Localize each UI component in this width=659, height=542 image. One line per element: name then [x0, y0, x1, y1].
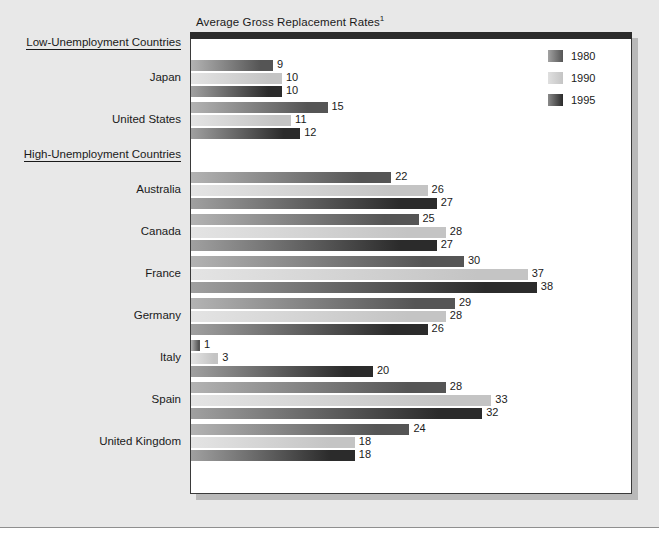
- bar-value-label: 10: [286, 84, 298, 96]
- chart-figure: Average Gross Replacement Rates1 1980199…: [0, 0, 659, 542]
- bar-1980: [191, 298, 455, 309]
- bar-1980: [191, 256, 464, 267]
- chart-row: United Kingdom241818: [0, 422, 659, 464]
- bar-value-label: 10: [286, 71, 298, 83]
- country-label: Spain: [152, 393, 181, 405]
- bar-1990: [191, 227, 446, 238]
- bar-1990: [191, 353, 218, 364]
- bar-1980: [191, 382, 446, 393]
- chart-row: Canada252827: [0, 212, 659, 254]
- bar-value-label: 24: [413, 422, 425, 434]
- bar-1990: [191, 437, 355, 448]
- bar-1990: [191, 185, 428, 196]
- bar-1980: [191, 172, 391, 183]
- country-label: Canada: [141, 225, 181, 237]
- bar-1995: [191, 240, 437, 251]
- bar-value-label: 33: [495, 393, 507, 405]
- bar-1980: [191, 340, 200, 351]
- bar-1980: [191, 214, 419, 225]
- bar-1995: [191, 86, 282, 97]
- bar-value-label: 15: [332, 100, 344, 112]
- bar-value-label: 26: [432, 183, 444, 195]
- country-label: United Kingdom: [99, 435, 181, 447]
- bar-value-label: 29: [459, 296, 471, 308]
- bar-1995: [191, 198, 437, 209]
- bottom-margin-strip: [0, 528, 659, 542]
- bar-1990: [191, 73, 282, 84]
- chart-row: Japan91010: [0, 58, 659, 100]
- group-header-low-unemployment: Low-Unemployment Countries: [26, 36, 181, 50]
- bar-1990: [191, 395, 491, 406]
- chart-row: Spain283332: [0, 380, 659, 422]
- bar-value-label: 28: [450, 225, 462, 237]
- bar-1990: [191, 311, 446, 322]
- bar-value-label: 27: [441, 196, 453, 208]
- bar-value-label: 25: [423, 212, 435, 224]
- chart-title-text: Average Gross Replacement Rates: [196, 16, 380, 28]
- country-label: Italy: [160, 351, 181, 363]
- bar-1995: [191, 282, 537, 293]
- chart-row: France303738: [0, 254, 659, 296]
- country-label: Japan: [150, 71, 181, 83]
- bar-value-label: 26: [432, 322, 444, 334]
- country-label: United States: [112, 113, 181, 125]
- bar-value-label: 28: [450, 309, 462, 321]
- country-label: Australia: [136, 183, 181, 195]
- bar-1995: [191, 450, 355, 461]
- bar-value-label: 38: [541, 280, 553, 292]
- chart-row: United States151112: [0, 100, 659, 142]
- bar-value-label: 27: [441, 238, 453, 250]
- bar-value-label: 20: [377, 364, 389, 376]
- plot-top-accent-bar: [190, 32, 632, 39]
- bar-1980: [191, 60, 273, 71]
- chart-title-footnote-marker: 1: [380, 14, 385, 23]
- bar-value-label: 3: [222, 351, 228, 363]
- bar-value-label: 28: [450, 380, 462, 392]
- bar-value-label: 18: [359, 435, 371, 447]
- chart-row: Italy1320: [0, 338, 659, 380]
- chart-row: Germany292826: [0, 296, 659, 338]
- bar-1980: [191, 102, 328, 113]
- bar-value-label: 22: [395, 170, 407, 182]
- group-header-high-unemployment: High-Unemployment Countries: [24, 148, 181, 162]
- bar-value-label: 18: [359, 448, 371, 460]
- bar-1995: [191, 366, 373, 377]
- bar-1990: [191, 115, 291, 126]
- bar-value-label: 12: [304, 126, 316, 138]
- bar-value-label: 30: [468, 254, 480, 266]
- bar-1990: [191, 269, 528, 280]
- bar-1995: [191, 128, 300, 139]
- chart-title: Average Gross Replacement Rates1: [196, 14, 384, 28]
- bar-value-label: 9: [277, 58, 283, 70]
- bar-value-label: 1: [204, 338, 210, 350]
- bar-1995: [191, 324, 428, 335]
- country-label: Germany: [134, 309, 181, 321]
- bar-1980: [191, 424, 409, 435]
- chart-row: Australia222627: [0, 170, 659, 212]
- bar-value-label: 32: [486, 406, 498, 418]
- bar-value-label: 11: [295, 113, 306, 125]
- bar-1995: [191, 408, 482, 419]
- country-label: France: [145, 267, 181, 279]
- bar-value-label: 37: [532, 267, 544, 279]
